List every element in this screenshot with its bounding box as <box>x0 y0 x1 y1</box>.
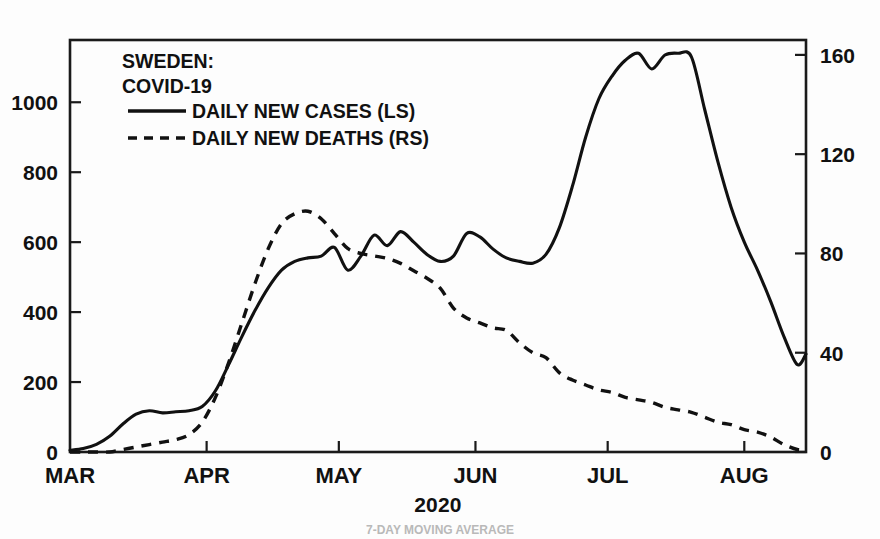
right-tick-label: 80 <box>820 242 843 265</box>
x-tick-label: MAR <box>45 463 95 488</box>
x-tick-label: AUG <box>720 463 769 488</box>
chart-title-block: SWEDEN: COVID-19 <box>122 50 214 97</box>
x-tick-label: JUN <box>453 463 497 488</box>
left-tick-label: 600 <box>23 231 58 254</box>
legend-label-cases: DAILY NEW CASES (LS) <box>192 100 415 122</box>
right-tick-label: 160 <box>820 44 855 67</box>
chart-title: SWEDEN: <box>122 50 214 72</box>
chart-legend: DAILY NEW CASES (LS) DAILY NEW DEATHS (R… <box>128 100 429 149</box>
right-tick-label: 40 <box>820 342 843 365</box>
left-tick-label: 1000 <box>11 91 58 114</box>
right-tick-label: 120 <box>820 143 855 166</box>
right-tick-label: 0 <box>820 441 832 464</box>
x-tick-label: APR <box>183 463 230 488</box>
x-axis-label: 2020 <box>414 493 462 516</box>
legend-label-deaths: DAILY NEW DEATHS (RS) <box>192 127 429 149</box>
left-tick-label: 0 <box>46 441 58 464</box>
x-tick-label: JUL <box>587 463 629 488</box>
x-axis-ticks: MARAPRMAYJUNJULAUG <box>45 441 769 488</box>
left-tick-label: 200 <box>23 371 58 394</box>
covid-chart-figure: 02004006008001000 04080120160 MARAPRMAYJ… <box>0 0 880 539</box>
series-line-deaths <box>70 211 806 452</box>
left-tick-label: 400 <box>23 301 58 324</box>
left-tick-label: 800 <box>23 161 58 184</box>
plot-frame <box>70 40 806 452</box>
x-tick-label: MAY <box>315 463 362 488</box>
chart-footnote: 7-DAY MOVING AVERAGE <box>366 523 514 537</box>
chart-subtitle: COVID-19 <box>122 75 212 97</box>
right-axis-ticks: 04080120160 <box>795 44 855 464</box>
